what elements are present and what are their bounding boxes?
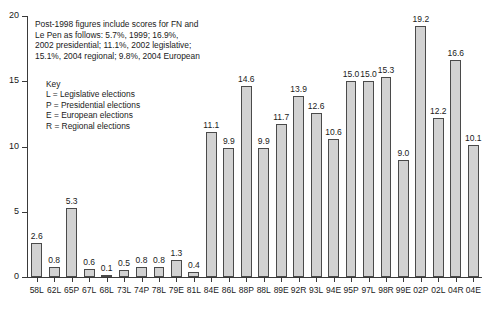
x-tick-mark: [456, 278, 457, 282]
x-tick-label: 73L: [117, 285, 131, 295]
bar: [415, 26, 426, 277]
annotation-line: Post-1998 figures include scores for FN …: [35, 19, 250, 30]
x-tick-mark: [316, 278, 317, 282]
bar-value-label: 15.0: [360, 70, 377, 79]
bar: [276, 124, 287, 277]
bar: [119, 270, 130, 277]
bar: [398, 160, 409, 277]
annotation-line: 15.1%, 2004 regional; 9.8%, 2004 Europea…: [35, 51, 250, 62]
bar: [31, 243, 42, 277]
bar-value-label: 9.9: [258, 137, 270, 146]
x-tick-label: 65P: [64, 285, 79, 295]
bar-group: 10.6: [328, 16, 339, 277]
bar: [136, 267, 147, 277]
bar-value-label: 0.6: [83, 258, 95, 267]
x-tick-mark: [299, 278, 300, 282]
bar-value-label: 11.1: [203, 121, 219, 130]
x-tick-mark: [194, 278, 195, 282]
bar-group: 16.6: [450, 16, 461, 277]
x-tick-label: 92R: [291, 285, 307, 295]
annotation-line: 2002 presidential; 11.1%, 2002 legislati…: [35, 40, 250, 51]
y-tick-label: 20: [9, 10, 19, 20]
x-tick-mark: [403, 278, 404, 282]
bar-value-label: 0.4: [188, 261, 200, 270]
bar-value-label: 0.5: [118, 259, 130, 268]
bar-value-label: 9.0: [397, 149, 409, 158]
legend-entry: L = Legislative elections: [46, 89, 140, 99]
bar-value-label: 14.6: [238, 75, 255, 84]
x-tick-label: 89E: [274, 285, 289, 295]
bar-value-label: 15.0: [343, 70, 360, 79]
bar: [468, 145, 479, 277]
x-tick-label: 04E: [466, 285, 481, 295]
bar: [49, 267, 60, 277]
x-axis-line: [27, 277, 482, 278]
x-tick-label: 84E: [204, 285, 219, 295]
bar-value-label: 0.8: [136, 256, 148, 265]
bar-value-label: 0.8: [153, 256, 165, 265]
legend-entry: E = European elections: [46, 110, 140, 120]
y-tick-label: 0: [14, 271, 19, 281]
bar-value-label: 0.1: [101, 264, 113, 273]
bar: [363, 81, 374, 277]
bar-value-label: 10.1: [465, 134, 482, 143]
bar: [241, 86, 252, 277]
x-tick-label: 81L: [187, 285, 201, 295]
x-tick-mark: [176, 278, 177, 282]
bar-group: 19.2: [415, 16, 426, 277]
x-tick-mark: [159, 278, 160, 282]
bar: [311, 113, 322, 277]
x-tick-label: 99E: [396, 285, 411, 295]
bar-value-label: 12.2: [430, 107, 447, 116]
bar-value-label: 11.7: [273, 113, 289, 122]
bar: [223, 148, 234, 277]
bar: [293, 96, 304, 277]
bar-group: 15.0: [346, 16, 357, 277]
bar-value-label: 13.9: [290, 85, 307, 94]
x-tick-label: 02L: [431, 285, 445, 295]
x-tick-mark: [37, 278, 38, 282]
bar-value-label: 19.2: [413, 15, 430, 24]
bar: [433, 118, 444, 277]
x-tick-label: 88P: [239, 285, 254, 295]
bar: [258, 148, 269, 277]
bar-value-label: 16.6: [448, 49, 465, 58]
x-tick-label: 74P: [134, 285, 149, 295]
legend-entry: R = Regional elections: [46, 121, 140, 131]
x-tick-mark: [421, 278, 422, 282]
bar-value-label: 2.6: [31, 232, 43, 241]
bar-group: 11.7: [276, 16, 287, 277]
x-tick-label: 67L: [82, 285, 96, 295]
x-tick-label: 79E: [169, 285, 184, 295]
bar-group: 13.9: [293, 16, 304, 277]
x-tick-mark: [386, 278, 387, 282]
bar: [381, 77, 392, 277]
x-tick-mark: [351, 278, 352, 282]
x-tick-label: 95P: [343, 285, 358, 295]
bar: [101, 275, 112, 277]
x-tick-label: 68L: [99, 285, 113, 295]
y-tick-label: 10: [9, 141, 19, 151]
bar: [84, 269, 95, 277]
x-tick-mark: [473, 278, 474, 282]
bar-value-label: 12.6: [308, 102, 325, 111]
x-tick-mark: [211, 278, 212, 282]
x-tick-label: 97L: [361, 285, 375, 295]
x-tick-label: 02P: [413, 285, 428, 295]
x-tick-label: 62L: [47, 285, 61, 295]
bar-group: 15.3: [381, 16, 392, 277]
x-tick-mark: [72, 278, 73, 282]
x-tick-mark: [334, 278, 335, 282]
x-tick-mark: [124, 278, 125, 282]
bar-group: 9.9: [258, 16, 269, 277]
x-tick-mark: [264, 278, 265, 282]
x-tick-mark: [246, 278, 247, 282]
x-tick-mark: [369, 278, 370, 282]
legend-entries: L = Legislative electionsP = Presidentia…: [46, 89, 140, 131]
bar: [346, 81, 357, 277]
bar-value-label: 9.9: [223, 137, 235, 146]
x-tick-label: 93L: [309, 285, 323, 295]
annotation-line: Le Pen as follows: 5.7%, 1999; 16.9%,: [35, 30, 250, 41]
bar: [188, 272, 199, 277]
x-tick-mark: [54, 278, 55, 282]
